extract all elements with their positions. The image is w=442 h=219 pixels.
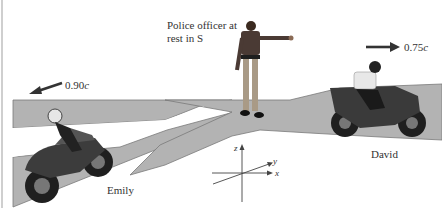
- relativity-figure: Police officer at rest in S 0.90c 0.75c …: [0, 0, 442, 219]
- david-label: David: [371, 148, 398, 161]
- david-speed-unit: c: [423, 41, 428, 53]
- officer-label-line2: rest in S: [167, 32, 237, 45]
- coordinate-axes: [212, 144, 273, 202]
- emily-speed-value: 0.90: [65, 79, 84, 91]
- david-motorcycle: [330, 61, 426, 137]
- david-speed-value: 0.75: [404, 41, 423, 53]
- emily-speed-unit: c: [84, 79, 89, 91]
- david-velocity-arrow: [366, 42, 400, 52]
- officer-label-line1: Police officer at: [167, 19, 237, 32]
- emily-speed-label: 0.90c: [65, 79, 89, 92]
- emily-velocity-arrow: [29, 83, 62, 94]
- david-speed-label: 0.75c: [404, 41, 428, 54]
- z-axis-label: z: [234, 142, 238, 155]
- x-axis-label: x: [275, 167, 279, 180]
- emily-label: Emily: [107, 184, 134, 197]
- officer-label: Police officer at rest in S: [167, 19, 237, 45]
